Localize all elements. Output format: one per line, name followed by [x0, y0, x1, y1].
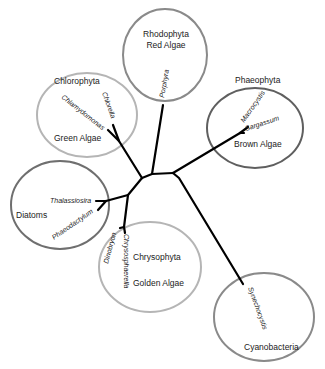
group-label-rhodophyta: Rhodophyta — [143, 29, 189, 39]
common-label-red-algae: Red Algae — [146, 40, 185, 50]
group-label-diatoms: Diatoms — [16, 210, 47, 220]
group-label-chlorophyta: Chlorophyta — [54, 76, 100, 86]
species-label-porphyra: Porphyra — [158, 69, 171, 98]
group-label-cyanobacteria: Cyanobacteria — [244, 342, 299, 352]
species-label-phaeodactylum: Phaeodactylum — [51, 207, 95, 241]
species-label-chlamydomonas: Chlamydomonas — [60, 93, 107, 132]
species-label-synechocystis: Synechocystis — [246, 286, 269, 331]
species-label-sargassum: Sargassum — [244, 114, 280, 133]
common-label-brown-algae: Brown Algae — [234, 139, 282, 149]
species-label-chrysosphaerella: Chrysosphaerella — [122, 234, 130, 289]
common-label-golden-algae: Golden Algae — [133, 278, 184, 288]
species-label-chlorella: Chlorella — [101, 91, 117, 119]
phylogenetic-tree: Rhodophyta Red Algae Chlorophyta Green A… — [0, 0, 325, 369]
common-label-green-algae: Green Algae — [54, 133, 102, 143]
group-label-chrysophyta: Chrysophyta — [133, 252, 181, 262]
species-label-thalassiosira: Thalassiosira — [50, 197, 91, 204]
group-label-phaeophyta: Phaeophyta — [235, 75, 281, 85]
